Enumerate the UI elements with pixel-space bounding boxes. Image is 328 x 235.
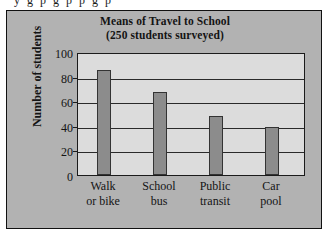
y-tick-label-60: 60 <box>39 97 73 109</box>
y-axis-tick-labels: 100 80 60 40 20 0 <box>37 53 73 176</box>
plot-area <box>77 53 305 176</box>
bar-car-pool <box>265 127 279 175</box>
y-tick-label-20: 20 <box>39 146 73 158</box>
y-tick-label-80: 80 <box>39 73 73 85</box>
chart-title-block: Means of Travel to School (250 students … <box>7 14 323 42</box>
gridline-60 <box>78 103 304 104</box>
x-label-line-1: Public <box>183 179 247 194</box>
x-label-line-2: bus <box>127 194 191 209</box>
chart-figure: Means of Travel to School (250 students … <box>6 10 322 229</box>
chart-screenshot: y g p g p p g p Means of Travel to Schoo… <box>0 0 328 235</box>
x-label-line-2: pool <box>239 194 303 209</box>
bar-walk-or-bike <box>97 70 111 175</box>
x-label-line-2: or bike <box>71 194 135 209</box>
x-label-line-1: Walk <box>71 179 135 194</box>
y-tick-label-0: 0 <box>39 171 73 183</box>
x-label-line-2: transit <box>183 194 247 209</box>
x-axis-category-labels: Walk or bike School bus Public transit C… <box>77 179 305 219</box>
cut-off-text: y g p g p p g p <box>14 0 113 6</box>
gridline-80 <box>78 79 304 80</box>
y-tick-label-40: 40 <box>39 122 73 134</box>
cut-off-text-above-figure: y g p g p p g p <box>0 0 328 9</box>
x-label-walk-or-bike: Walk or bike <box>71 179 135 209</box>
x-label-school-bus: School bus <box>127 179 191 209</box>
chart-title: Means of Travel to School <box>7 14 323 28</box>
x-label-line-1: Car <box>239 179 303 194</box>
y-tick-label-100: 100 <box>39 48 73 60</box>
x-label-public-transit: Public transit <box>183 179 247 209</box>
x-label-car-pool: Car pool <box>239 179 303 209</box>
x-label-line-1: School <box>127 179 191 194</box>
bar-school-bus <box>153 92 167 175</box>
chart-subtitle: (250 students surveyed) <box>7 28 323 42</box>
bar-public-transit <box>209 116 223 175</box>
